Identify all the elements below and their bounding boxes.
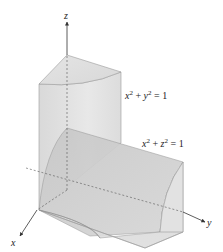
- x-axis: [20, 210, 37, 236]
- y-axis: [183, 212, 205, 222]
- cylinder-intersection-diagram: z y x x2 + y2 = 1 x2 + z2 = 1: [0, 0, 223, 252]
- y-axis-label: y: [206, 217, 212, 228]
- equation-horizontal-cylinder: x2 + z2 = 1: [141, 137, 184, 149]
- x-axis-label: x: [10, 237, 16, 248]
- z-axis-label: z: [63, 10, 68, 21]
- equation-vertical-cylinder: x2 + y2 = 1: [124, 89, 167, 101]
